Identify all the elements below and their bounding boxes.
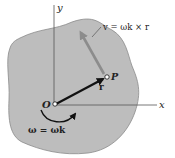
point-p-marker bbox=[105, 75, 109, 79]
rotation-diagram: y x v = ωk × r r P O ω = ωk bbox=[0, 0, 175, 158]
point-p-label: P bbox=[110, 71, 119, 82]
origin-marker bbox=[53, 102, 57, 106]
position-vector-label: r bbox=[99, 82, 104, 92]
x-axis-label: x bbox=[159, 99, 165, 110]
angular-velocity-label: ω = ωk bbox=[28, 125, 66, 135]
origin-label: O bbox=[42, 99, 51, 110]
velocity-label: v = ωk × r bbox=[102, 22, 150, 32]
y-axis-label: y bbox=[56, 2, 63, 13]
